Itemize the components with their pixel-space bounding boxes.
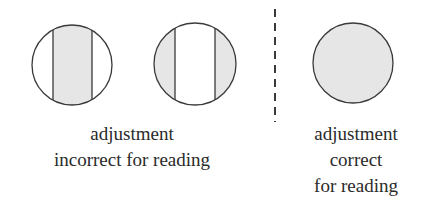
incorrect-adjustment-circle-1	[32, 20, 112, 110]
label-line: adjustment	[54, 121, 210, 147]
incorrect-adjustment-circle-2	[150, 20, 240, 110]
label-line: for reading	[314, 173, 398, 199]
correct-adjustment-circle	[313, 23, 393, 103]
label-line: correct	[314, 147, 398, 173]
correct-adjustment-label: adjustment correct for reading	[314, 121, 398, 199]
label-line: adjustment	[314, 121, 398, 147]
incorrect-adjustment-label: adjustment incorrect for reading	[54, 121, 210, 173]
label-line: incorrect for reading	[54, 147, 210, 173]
